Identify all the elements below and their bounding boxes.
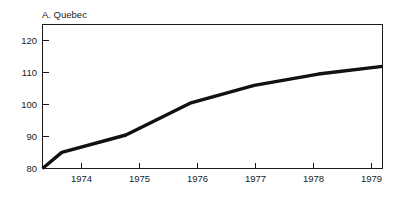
chart-canvas: 120 110 100 90 80 1974 1975 1976 1977 19… (0, 0, 412, 197)
x-tick-label-1979: 1979 (361, 173, 382, 184)
y-tick-label-90: 90 (26, 131, 37, 142)
y-tick-label-100: 100 (21, 99, 37, 110)
x-tick-label-1975: 1975 (129, 173, 150, 184)
x-tick-label-1974: 1974 (71, 173, 92, 184)
chart-title: A. Quebec (42, 9, 87, 20)
chart-figure: 120 110 100 90 80 1974 1975 1976 1977 19… (0, 0, 412, 197)
y-axis-labels: 120 110 100 90 80 (21, 35, 37, 174)
data-line-quebec (43, 66, 383, 168)
y-tick-label-120: 120 (21, 35, 37, 46)
y-tick-label-110: 110 (22, 67, 37, 78)
x-axis-ticks (82, 163, 372, 169)
x-tick-label-1978: 1978 (303, 173, 324, 184)
y-tick-label-80: 80 (26, 163, 37, 174)
x-tick-label-1977: 1977 (245, 173, 266, 184)
x-tick-label-1976: 1976 (187, 173, 208, 184)
y-axis-ticks (43, 41, 49, 137)
x-axis-labels: 1974 1975 1976 1977 1978 1979 (71, 173, 382, 184)
